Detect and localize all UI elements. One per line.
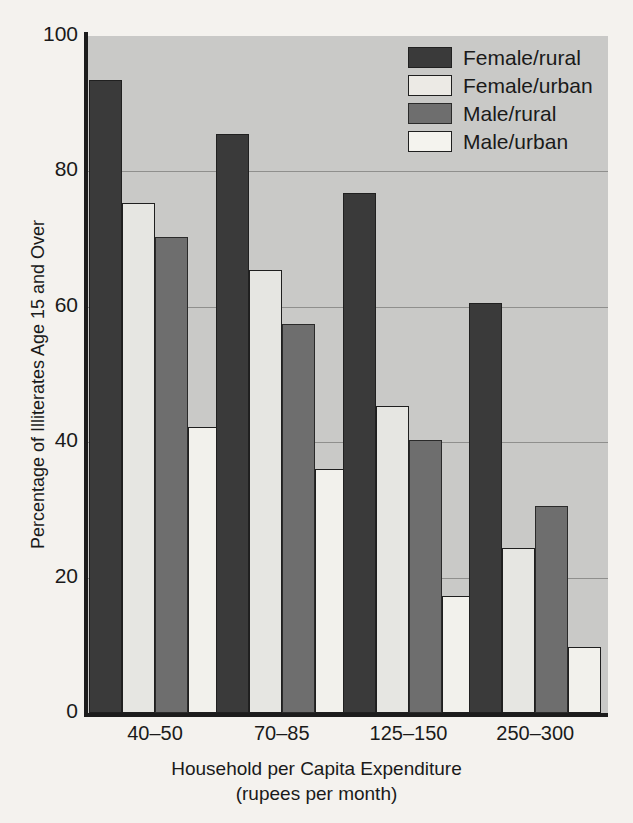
legend-item: Female/rural	[408, 44, 593, 71]
gridline	[88, 171, 608, 172]
legend-item: Male/urban	[408, 128, 593, 155]
y-tick-label: 0	[0, 699, 78, 723]
legend: Female/ruralFemale/urbanMale/ruralMale/u…	[408, 44, 593, 156]
y-axis-line	[84, 32, 88, 717]
y-tick-label: 100	[0, 22, 78, 46]
x-axis-line	[84, 713, 608, 717]
bar	[568, 647, 601, 713]
x-tick-label: 250–300	[449, 722, 621, 745]
legend-item: Female/urban	[408, 72, 593, 99]
legend-label: Female/rural	[463, 46, 581, 70]
bar	[343, 193, 376, 713]
bar	[282, 324, 315, 713]
legend-label: Male/rural	[463, 102, 556, 126]
bar	[376, 406, 409, 713]
bar	[155, 237, 188, 713]
chart-figure: 020406080100 40–5070–85125–150250–300 Pe…	[0, 0, 633, 823]
legend-swatch-icon	[408, 75, 452, 96]
bar	[89, 80, 122, 713]
legend-item: Male/rural	[408, 100, 593, 127]
bar	[122, 203, 155, 713]
bar	[409, 440, 442, 713]
x-axis-title: Household per Capita Expenditure (rupees…	[0, 756, 633, 806]
legend-swatch-icon	[408, 47, 452, 68]
legend-swatch-icon	[408, 103, 452, 124]
bar	[249, 270, 282, 713]
legend-label: Male/urban	[463, 130, 568, 154]
bar	[502, 548, 535, 713]
x-axis-title-sub: (rupees per month)	[0, 781, 633, 806]
legend-label: Female/urban	[463, 74, 593, 98]
y-axis-title: Percentage of Illiterates Age 15 and Ove…	[28, 85, 49, 685]
x-axis-title-main: Household per Capita Expenditure	[0, 756, 633, 781]
bar	[469, 303, 502, 713]
legend-swatch-icon	[408, 131, 452, 152]
bar	[216, 134, 249, 713]
bar	[535, 506, 568, 713]
